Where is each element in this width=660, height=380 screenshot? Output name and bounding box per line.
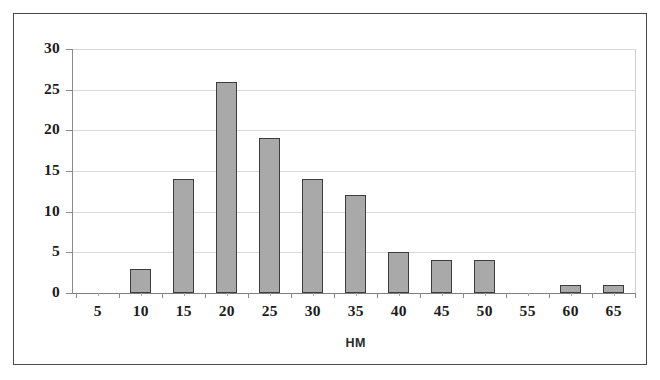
x-tick-mark-35 — [334, 293, 335, 298]
bar-10 — [130, 269, 151, 293]
x-tick-label-5: 5 — [76, 302, 120, 320]
y-tick-label-20: 20 — [22, 120, 60, 138]
x-minor-tick-65 — [614, 293, 615, 296]
x-tick-label-55: 55 — [506, 302, 550, 320]
x-tick-label-25: 25 — [248, 302, 292, 320]
x-tick-label-30: 30 — [291, 302, 335, 320]
x-minor-tick-50 — [485, 293, 486, 296]
x-tick-label-20: 20 — [205, 302, 249, 320]
x-minor-tick-55 — [528, 293, 529, 296]
x-axis-title: HM — [321, 336, 391, 350]
bar-15 — [173, 179, 194, 293]
x-minor-tick-5 — [98, 293, 99, 296]
y-tick-label-25: 25 — [22, 80, 60, 98]
x-minor-tick-15 — [184, 293, 185, 296]
x-tick-mark-10 — [119, 293, 120, 298]
x-tick-mark-55 — [506, 293, 507, 298]
x-tick-label-50: 50 — [463, 302, 507, 320]
x-tick-label-40: 40 — [377, 302, 421, 320]
bar-20 — [216, 82, 237, 293]
x-tick-label-35: 35 — [334, 302, 378, 320]
x-tick-mark-30 — [291, 293, 292, 298]
bar-25 — [259, 138, 280, 293]
x-minor-tick-60 — [571, 293, 572, 296]
x-tick-label-15: 15 — [162, 302, 206, 320]
x-tick-label-45: 45 — [420, 302, 464, 320]
x-minor-tick-45 — [442, 293, 443, 296]
x-tick-mark-5 — [76, 293, 77, 298]
x-tick-mark-60 — [549, 293, 550, 298]
x-axis-line — [72, 293, 636, 294]
y-tick-label-30: 30 — [22, 39, 60, 57]
bar-65 — [603, 285, 624, 293]
y-tick-mark-5 — [66, 252, 73, 253]
bar-40 — [388, 252, 409, 293]
x-minor-tick-20 — [227, 293, 228, 296]
y-tick-mark-10 — [66, 212, 73, 213]
x-minor-tick-35 — [356, 293, 357, 296]
bar-45 — [431, 260, 452, 293]
x-tick-mark-end — [635, 293, 636, 298]
bar-30 — [302, 179, 323, 293]
y-tick-mark-15 — [66, 171, 73, 172]
x-minor-tick-10 — [141, 293, 142, 296]
x-tick-mark-65 — [592, 293, 593, 298]
bar-60 — [560, 285, 581, 293]
x-tick-mark-20 — [205, 293, 206, 298]
x-tick-mark-25 — [248, 293, 249, 298]
x-tick-mark-45 — [420, 293, 421, 298]
x-minor-tick-30 — [313, 293, 314, 296]
y-tick-label-5: 5 — [22, 242, 60, 260]
x-minor-tick-40 — [399, 293, 400, 296]
y-tick-mark-20 — [66, 130, 73, 131]
y-tick-mark-0 — [66, 293, 73, 294]
y-tick-mark-30 — [66, 49, 73, 50]
y-tick-label-10: 10 — [22, 202, 60, 220]
x-tick-mark-15 — [162, 293, 163, 298]
x-tick-mark-50 — [463, 293, 464, 298]
x-tick-label-60: 60 — [549, 302, 593, 320]
x-tick-mark-40 — [377, 293, 378, 298]
x-tick-label-10: 10 — [119, 302, 163, 320]
bar-35 — [345, 195, 366, 293]
x-minor-tick-25 — [270, 293, 271, 296]
y-tick-mark-25 — [66, 90, 73, 91]
histogram-chart: 051015202530 5101520253035404550556065 H… — [0, 0, 660, 380]
bar-50 — [474, 260, 495, 293]
y-tick-label-15: 15 — [22, 161, 60, 179]
x-tick-label-65: 65 — [592, 302, 636, 320]
y-tick-label-0: 0 — [22, 283, 60, 301]
